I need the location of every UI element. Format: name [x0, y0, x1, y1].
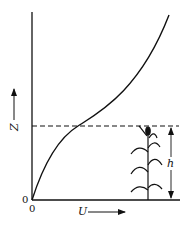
diagram: Z U 0 0 h [0, 0, 187, 231]
crop-plant-icon [131, 126, 162, 200]
origin-label-z: 0 [22, 194, 28, 205]
canopy-height-label: h [167, 157, 174, 170]
origin-label-u: 0 [29, 203, 35, 214]
z-axis-label: Z [8, 123, 21, 132]
u-axis-label: U [78, 205, 88, 218]
